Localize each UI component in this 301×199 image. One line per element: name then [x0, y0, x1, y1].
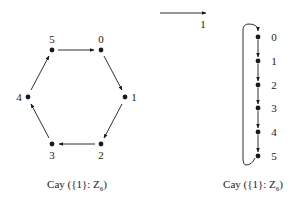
node-4: [256, 130, 261, 135]
node-label-5: 5: [49, 34, 55, 45]
edge-4-5: [31, 56, 49, 90]
hexagon-nodes: [26, 48, 128, 147]
edge-0-1: [104, 56, 122, 90]
diagram-canvas: [0, 0, 301, 199]
chain-label-3: 3: [271, 103, 277, 114]
node-3: [256, 106, 261, 111]
node-4: [26, 95, 31, 100]
node-label-0: 0: [98, 34, 104, 45]
edge-1-2: [104, 104, 122, 138]
node-1: [123, 95, 128, 100]
chain-label-0: 0: [271, 32, 277, 43]
chain-label-5: 5: [271, 151, 277, 162]
edge-3-4: [31, 104, 49, 138]
chain-label-1: 1: [271, 56, 277, 67]
right-graph-caption: Cay ({1}: Z6): [223, 178, 283, 195]
left-graph-caption: Cay ({1}: Z6): [47, 178, 107, 195]
node-3: [50, 142, 55, 147]
chain-label-4: 4: [271, 127, 277, 138]
node-0: [99, 48, 104, 53]
chain-edges: [243, 24, 258, 165]
mapping-arrow-label: 1: [200, 19, 206, 30]
node-label-4: 4: [16, 92, 22, 103]
node-label-2: 2: [98, 150, 104, 161]
node-0: [256, 35, 261, 40]
node-1: [256, 59, 261, 64]
node-5: [256, 154, 261, 159]
node-label-1: 1: [131, 92, 137, 103]
loop-edge-5-0: [243, 24, 258, 165]
node-2: [99, 142, 104, 147]
node-2: [256, 83, 261, 88]
hexagon-edges: [31, 50, 122, 144]
node-label-3: 3: [49, 150, 55, 161]
chain-label-2: 2: [271, 80, 277, 91]
node-5: [50, 48, 55, 53]
